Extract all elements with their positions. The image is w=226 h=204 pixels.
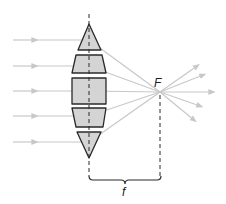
focal-length-label: f <box>122 185 127 199</box>
lens-diagram: F f <box>0 0 226 204</box>
diverging-rays <box>160 66 212 120</box>
prism-lower-trapezoid <box>72 108 106 127</box>
focal-length-brace <box>89 176 161 184</box>
focal-point-label: F <box>154 76 162 90</box>
